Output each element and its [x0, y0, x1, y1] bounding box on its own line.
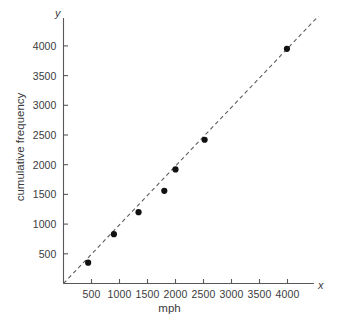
y-axis-ticks — [64, 46, 69, 254]
data-point — [202, 137, 208, 143]
data-point — [111, 231, 117, 237]
y-axis-name-label: y — [55, 7, 61, 19]
cumulative-frequency-scatter-chart: 5001000150020002500300035004000 50010001… — [0, 0, 339, 328]
y-axis-tick-label: 3500 — [0, 70, 57, 82]
x-axis-tick-label: 4000 — [276, 288, 300, 300]
x-axis-tick-label: 2500 — [192, 288, 216, 300]
y-axis-tick-label: 2500 — [0, 129, 57, 141]
x-axis-tick-label: 2000 — [164, 288, 188, 300]
data-point — [85, 260, 91, 266]
y-axis-tick-label: 3000 — [0, 99, 57, 111]
y-axis-tick-label: 1000 — [0, 218, 57, 230]
x-axis-title: mph — [0, 302, 339, 314]
trend-line — [64, 16, 319, 283]
x-axis-tick-label: 3500 — [248, 288, 272, 300]
y-axis-tick-label: 4000 — [0, 40, 57, 52]
x-axis-ticks — [92, 279, 288, 284]
axes-group — [64, 18, 315, 284]
data-points — [85, 46, 290, 266]
y-axis-tick-label: 500 — [0, 248, 57, 260]
y-axis-title: cumulative frequency — [14, 57, 26, 237]
y-axis-tick-label: 1500 — [0, 188, 57, 200]
data-point — [172, 166, 178, 172]
data-point — [284, 46, 290, 52]
x-axis-name-label: x — [318, 279, 324, 291]
x-axis-tick-label: 500 — [83, 288, 101, 300]
x-axis-tick-label: 3000 — [220, 288, 244, 300]
y-axis-tick-label: 2000 — [0, 159, 57, 171]
data-point — [161, 188, 167, 194]
x-axis-tick-label: 1000 — [108, 288, 132, 300]
data-point — [135, 209, 141, 215]
x-axis-tick-label: 1500 — [136, 288, 160, 300]
